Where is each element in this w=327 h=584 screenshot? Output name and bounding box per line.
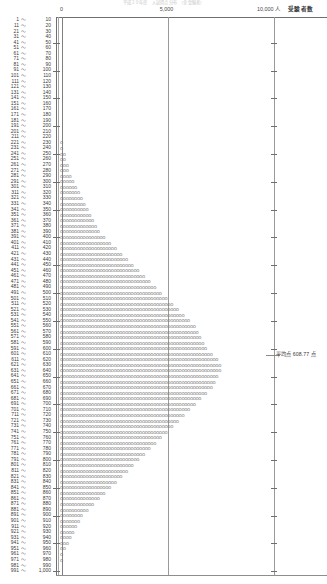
y-axis-tick-right <box>271 377 277 378</box>
y-axis-tick <box>53 543 60 544</box>
y-axis-tick <box>53 293 60 294</box>
y-axis-tick-right <box>271 543 277 544</box>
y-axis-tick <box>53 237 60 238</box>
y-axis-tick-right <box>271 126 277 127</box>
y-axis-tick <box>53 154 60 155</box>
x-axis-tick-5000: 5,000 <box>160 5 174 13</box>
plot-bottom-rule <box>56 575 327 576</box>
y-axis-tick-right <box>271 98 277 99</box>
y-axis-tick-right <box>271 210 277 211</box>
x-axis-title: 受験者数 <box>288 5 313 13</box>
row-range-label: 991～1,000 <box>0 568 53 574</box>
y-axis-tick-right <box>271 71 277 72</box>
histogram-row: 991～1,000 <box>0 569 327 575</box>
row-range-high: 1,000 <box>39 568 51 574</box>
y-axis-tick-right <box>271 43 277 44</box>
row-range-tilde: ～ <box>21 568 26 574</box>
chart-page: 平成２９年度 入試得点分布 （全受験者） 0 5,000 10,000 人 受験… <box>0 0 327 584</box>
y-axis-tick <box>53 488 60 489</box>
y-axis-tick <box>53 265 60 266</box>
y-axis-tick <box>53 404 60 405</box>
histogram-rows: 1～1011～2021～3031～4041～5051～6061～7071～808… <box>0 18 327 574</box>
y-axis-tick-right <box>271 516 277 517</box>
x-axis-tick-0: 0 <box>60 5 63 13</box>
y-axis-tick <box>53 126 60 127</box>
y-axis-tick <box>53 571 60 572</box>
x-axis-unit: 人 <box>275 5 280 13</box>
y-axis-tick-right <box>271 404 277 405</box>
average-label: 平均点 608.77 点 <box>276 351 316 358</box>
y-axis-tick-right <box>271 488 277 489</box>
y-axis-tick-right <box>271 265 277 266</box>
y-axis-tick-right <box>271 293 277 294</box>
y-axis-tick <box>53 516 60 517</box>
y-axis-tick-right <box>271 571 277 572</box>
y-axis-tick <box>53 321 60 322</box>
y-axis-tick <box>53 210 60 211</box>
row-range-low: 991 <box>11 568 19 574</box>
y-axis-tick <box>53 71 60 72</box>
y-axis-tick-right <box>271 182 277 183</box>
y-axis-tick-right <box>271 154 277 155</box>
y-axis-tick <box>53 377 60 378</box>
y-axis-tick-right <box>271 349 277 350</box>
y-axis-tick <box>53 98 60 99</box>
y-axis-tick <box>53 432 60 433</box>
y-axis-tick-right <box>271 460 277 461</box>
y-axis-tick <box>53 460 60 461</box>
y-axis-tick <box>53 349 60 350</box>
y-axis-tick <box>53 182 60 183</box>
y-axis-tick-right <box>271 432 277 433</box>
y-axis-tick-right <box>271 237 277 238</box>
y-axis-tick-right <box>271 321 277 322</box>
y-axis-tick <box>53 43 60 44</box>
x-axis-tick-10000: 10,000 <box>257 5 274 13</box>
